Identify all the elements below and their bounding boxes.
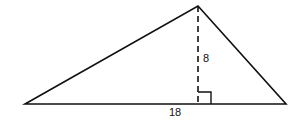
height-label: 8	[203, 52, 209, 64]
right-angle-marker	[198, 92, 211, 104]
base-label: 18	[169, 106, 181, 118]
triangle-diagram: 8 18	[0, 0, 302, 120]
triangle	[25, 6, 286, 104]
